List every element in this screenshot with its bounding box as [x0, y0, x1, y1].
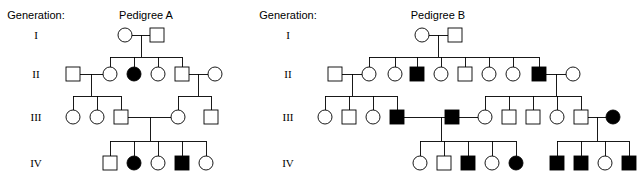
generation-row-label-iii: III — [283, 111, 294, 123]
pedigree-b-individual-b-IV-6-male-affected — [550, 156, 564, 170]
figure-background — [0, 0, 641, 186]
pedigree-b-individual-b-III-8-male-unaffected — [526, 110, 540, 124]
pedigree-b-individual-b-III-9-female-unaffected — [550, 110, 564, 124]
pedigree-b-individual-b-II-9-male-affected — [532, 67, 546, 81]
pedigree-b-individual-b-III-6-female-unaffected — [478, 110, 492, 124]
pedigree-a-individual-a-IV-4-male-affected — [175, 156, 189, 170]
generation-row-label-i: I — [34, 29, 38, 41]
pedigree-a-individual-a-IV-3-female-unaffected — [151, 156, 165, 170]
pedigree-a-individual-a-IV-5-female-unaffected — [199, 156, 213, 170]
pedigree-a-title: Pedigree A — [119, 9, 173, 21]
pedigree-b-individual-b-II-10-female-unaffected — [566, 67, 580, 81]
generation-row-label-ii: II — [32, 68, 40, 80]
pedigree-b-individual-b-III-4-male-affected — [390, 110, 404, 124]
pedigree-a-individual-a-III-2-female-unaffected — [90, 110, 104, 124]
pedigree-b-individual-b-II-2-female-unaffected — [362, 67, 376, 81]
pedigree-b-individual-b-II-6-male-unaffected — [458, 67, 472, 81]
pedigree-b-individual-b-II-7-female-unaffected — [482, 67, 496, 81]
pedigree-a-individual-a-I-2-male-unaffected — [150, 28, 164, 42]
pedigree-b-individual-b-IV-3-male-affected — [461, 156, 475, 170]
pedigree-b-individual-b-II-5-female-unaffected — [434, 67, 448, 81]
pedigree-a-individual-a-IV-2-female-affected — [127, 156, 141, 170]
pedigree-b-individual-b-IV-8-female-unaffected — [598, 156, 612, 170]
pedigree-b-individual-b-IV-9-male-affected — [622, 156, 636, 170]
pedigree-b-individual-b-IV-4-female-unaffected — [485, 156, 499, 170]
generation-row-label-i: I — [286, 29, 290, 41]
pedigree-figure: Generation:IIIIIIIVGeneration:IIIIIIIV P… — [0, 0, 641, 186]
pedigree-b-individual-b-II-4-male-affected — [410, 67, 424, 81]
pedigree-a-individual-a-II-3-female-affected — [127, 67, 141, 81]
pedigree-b-individual-b-II-3-female-unaffected — [388, 67, 402, 81]
pedigree-b-individual-b-III-5-male-affected — [445, 110, 459, 124]
pedigree-b-individual-b-III-7-male-unaffected — [502, 110, 516, 124]
pedigree-b-individual-b-III-3-female-unaffected — [366, 110, 380, 124]
pedigree-a-individual-a-II-5-male-unaffected — [175, 67, 189, 81]
pedigree-b-title: Pedigree B — [411, 9, 465, 21]
generation-row-label-ii: II — [284, 68, 292, 80]
pedigree-b-individual-b-III-2-male-unaffected — [342, 110, 356, 124]
generation-row-label-iv: IV — [30, 157, 42, 169]
pedigree-a-individual-a-II-2-female-unaffected — [103, 67, 117, 81]
generation-row-label-iii: III — [31, 111, 42, 123]
pedigree-a-individual-a-I-1-female-unaffected — [118, 28, 132, 42]
generation-row-label-iv: IV — [282, 157, 294, 169]
pedigree-b-individual-b-I-2-male-unaffected — [448, 28, 462, 42]
pedigree-a-individual-a-III-5-male-unaffected — [204, 110, 218, 124]
pedigree-canvas: Generation:IIIIIIIVGeneration:IIIIIIIV P… — [0, 0, 641, 186]
pedigree-a-individual-a-III-4-female-unaffected — [171, 110, 185, 124]
pedigree-b-individual-b-IV-7-male-affected — [574, 156, 588, 170]
pedigree-b-individual-b-IV-2-male-unaffected — [437, 156, 451, 170]
pedigree-b-individual-b-IV-1-female-unaffected — [413, 156, 427, 170]
pedigree-a-individual-a-II-1-male-unaffected — [66, 67, 80, 81]
generation-heading-label: Generation: — [259, 9, 316, 21]
pedigree-b-individual-b-III-11-female-affected — [606, 110, 620, 124]
pedigree-a-individual-a-III-1-female-unaffected — [66, 110, 80, 124]
pedigree-b-individual-b-II-1-male-unaffected — [328, 67, 342, 81]
pedigree-b-individual-b-III-1-female-unaffected — [318, 110, 332, 124]
pedigree-b-individual-b-II-8-female-unaffected — [506, 67, 520, 81]
generation-heading-label: Generation: — [7, 9, 64, 21]
pedigree-b-individual-b-IV-5-female-affected — [509, 156, 523, 170]
pedigree-b-individual-b-III-10-male-unaffected — [574, 110, 588, 124]
pedigree-b-individual-b-I-1-female-unaffected — [415, 28, 429, 42]
pedigree-a-individual-a-II-6-female-unaffected — [208, 67, 222, 81]
pedigree-a-individual-a-II-4-female-unaffected — [151, 67, 165, 81]
pedigree-a-individual-a-III-3-male-unaffected — [114, 110, 128, 124]
pedigree-a-individual-a-IV-1-male-unaffected — [103, 156, 117, 170]
